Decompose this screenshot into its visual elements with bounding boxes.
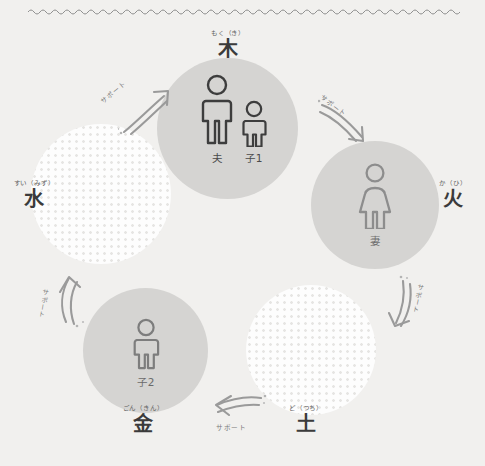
five-elements-diagram: 夫 子1 妻 子2 もく（き） 木 か（ひ） 火 ど（つち） 土 ごん（きん） … <box>0 0 485 466</box>
person-label-wife: 妻 <box>358 233 392 248</box>
element-kanji-fire: 火 <box>423 189 483 209</box>
person-label-husband: 夫 <box>199 150 235 165</box>
element-furigana-fire: か（ひ） <box>423 180 483 186</box>
element-furigana-earth: ど（つち） <box>271 405 341 411</box>
element-furigana-wood: もく（き） <box>188 30 268 36</box>
element-kanji-metal: 金 <box>105 414 181 434</box>
arrow-label-metal-to-water: サポート <box>35 288 50 319</box>
person-label-child1: 子1 <box>239 150 269 165</box>
element-label-water: すい（みず） 水 <box>0 180 68 209</box>
element-furigana-metal: ごん（きん） <box>105 405 181 411</box>
element-kanji-water: 水 <box>0 189 68 209</box>
element-furigana-water: すい（みず） <box>0 180 68 186</box>
figure-child2 <box>131 318 161 370</box>
figure-husband <box>199 74 235 146</box>
arrow-metal-to-water-icon <box>52 272 86 328</box>
person-label-child2: 子2 <box>130 374 162 389</box>
element-label-metal: ごん（きん） 金 <box>105 405 181 434</box>
element-label-fire: か（ひ） 火 <box>423 180 483 209</box>
arrow-label-earth-to-metal: サポート <box>216 422 246 432</box>
figure-child1 <box>240 100 268 147</box>
figure-wife <box>357 163 393 229</box>
element-label-earth: ど（つち） 土 <box>271 405 341 434</box>
arrow-water-to-wood-icon <box>118 88 174 136</box>
arrow-earth-to-metal-icon <box>209 392 267 424</box>
element-kanji-wood: 木 <box>188 39 268 59</box>
wavy-divider-icon <box>28 6 460 18</box>
element-label-wood: もく（き） 木 <box>188 30 268 59</box>
element-kanji-earth: 土 <box>271 414 341 434</box>
